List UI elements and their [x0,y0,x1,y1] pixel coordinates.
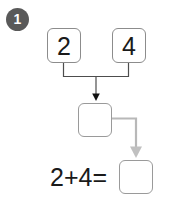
sum-intermediate-box[interactable] [78,103,112,137]
equation-text: 2+4= [50,160,107,194]
merge-connector [64,63,129,96]
addend-box-1[interactable]: 2 [47,28,81,63]
result-connector [112,119,136,149]
merge-arrowhead [92,94,100,102]
result-arrowhead [130,147,142,159]
worksheet-canvas: 1 2 4 2+4= [0,0,180,204]
answer-box[interactable] [119,160,153,194]
addend-box-2[interactable]: 4 [112,28,146,63]
